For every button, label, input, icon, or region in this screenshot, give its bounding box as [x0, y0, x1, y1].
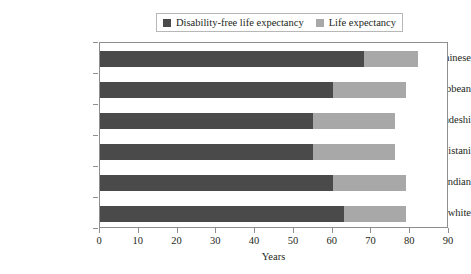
- bar-segment-disability-free-life-expectancy: [100, 144, 313, 160]
- legend-swatch-disability-free-life-expectancy: [163, 19, 171, 27]
- bar-segment-disability-free-life-expectancy: [100, 113, 313, 129]
- plot-area: [99, 42, 448, 228]
- chart-legend: Disability-free life expectancy Life exp…: [156, 13, 403, 32]
- legend-item-life-expectancy: Life expectancy: [316, 17, 396, 28]
- x-axis-label: 60: [317, 234, 347, 247]
- x-axis-label: 20: [162, 234, 192, 247]
- x-axis-label: 90: [433, 234, 463, 247]
- x-axis-tick: [99, 228, 100, 233]
- x-axis-tick: [332, 228, 333, 233]
- legend-item-disability-free-life-expectancy: Disability-free life expectancy: [163, 17, 304, 28]
- x-axis-label: 0: [84, 234, 114, 247]
- bar-row: [100, 82, 449, 98]
- bar-row: [100, 206, 449, 222]
- bar-segment-disability-free-life-expectancy: [100, 82, 333, 98]
- y-axis-tick: [93, 197, 98, 198]
- y-axis-tick: [93, 228, 98, 229]
- y-axis-tick: [93, 166, 98, 167]
- x-axis-tick: [254, 228, 255, 233]
- bars-layer: [100, 43, 447, 227]
- legend-label-life-expectancy: Life expectancy: [329, 17, 396, 28]
- bar-segment-disability-free-life-expectancy: [100, 51, 364, 67]
- legend-swatch-life-expectancy: [316, 19, 324, 27]
- bar-row: [100, 113, 449, 129]
- bar-segment-life-expectancy: [364, 51, 418, 67]
- bar-row: [100, 175, 449, 191]
- y-axis-tick: [93, 104, 98, 105]
- x-axis-tick: [177, 228, 178, 233]
- y-axis-tick: [93, 42, 98, 43]
- x-axis-title: Years: [99, 250, 448, 263]
- x-axis-tick: [448, 228, 449, 233]
- bar-segment-life-expectancy: [313, 113, 394, 129]
- bar-chart: Disability-free life expectancy Life exp…: [0, 0, 471, 274]
- legend-label-disability-free-life-expectancy: Disability-free life expectancy: [176, 17, 304, 28]
- bar-segment-disability-free-life-expectancy: [100, 206, 344, 222]
- x-axis-tick: [138, 228, 139, 233]
- x-axis-label: 70: [355, 234, 385, 247]
- x-axis-tick: [370, 228, 371, 233]
- y-axis-tick: [93, 135, 98, 136]
- x-axis-tick: [293, 228, 294, 233]
- bar-segment-life-expectancy: [333, 175, 407, 191]
- bar-segment-life-expectancy: [333, 82, 407, 98]
- bar-segment-life-expectancy: [344, 206, 406, 222]
- y-axis-tick: [93, 73, 98, 74]
- x-axis-label: 40: [239, 234, 269, 247]
- bar-row: [100, 144, 449, 160]
- x-axis-label: 80: [394, 234, 424, 247]
- x-axis-label: 50: [278, 234, 308, 247]
- x-axis-tick: [215, 228, 216, 233]
- x-axis-tick: [409, 228, 410, 233]
- bar-row: [100, 51, 449, 67]
- bar-segment-life-expectancy: [313, 144, 394, 160]
- x-axis-label: 30: [200, 234, 230, 247]
- x-axis-label: 10: [123, 234, 153, 247]
- bar-segment-disability-free-life-expectancy: [100, 175, 333, 191]
